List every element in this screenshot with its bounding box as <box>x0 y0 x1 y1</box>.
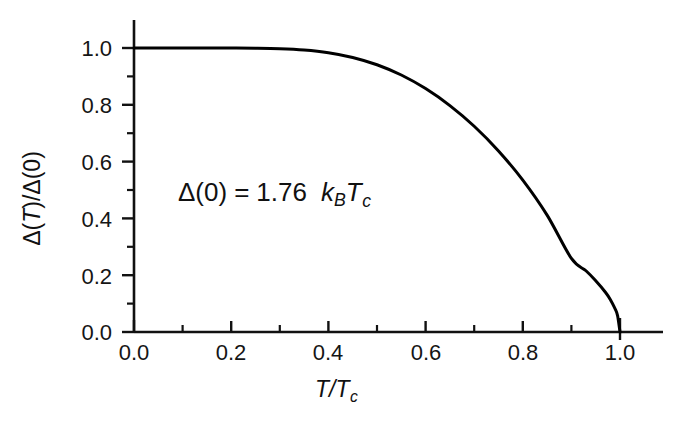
annotation-tc-subscript: c <box>362 191 371 211</box>
x-axis-title-subscript: c <box>350 388 358 405</box>
y-axis-title-delta-open: Δ( <box>19 223 45 246</box>
x-axis-title-numerator: T <box>315 376 329 402</box>
ytick-label-0.4: 0.4 <box>42 207 112 233</box>
ytick-label-0.6: 0.6 <box>42 150 112 176</box>
annotation-value: 1.76 <box>256 177 307 207</box>
xtick-label-0.4: 0.4 <box>293 340 363 366</box>
ytick-label-0.8: 0.8 <box>42 93 112 119</box>
y-axis-title: Δ(T)/Δ(0) <box>19 104 46 294</box>
ytick-label-1.0: 1.0 <box>42 36 112 62</box>
annotation-boltzmann-subscript: B <box>334 190 346 210</box>
x-axis-title: T/Tc <box>315 376 358 406</box>
xtick-label-0.8: 0.8 <box>488 340 558 366</box>
y-axis-title-tail: )/Δ(0) <box>19 151 45 209</box>
figure-container: 1.0 0.8 0.6 0.4 0.2 0.0 0.0 0.2 0.4 0.6 … <box>0 0 699 428</box>
y-axis-title-variable: T <box>19 209 45 223</box>
ytick-label-0.2: 0.2 <box>42 264 112 290</box>
xtick-label-1.0: 1.0 <box>585 340 655 366</box>
xtick-label-0.6: 0.6 <box>391 340 461 366</box>
annotation-boltzmann-symbol: k <box>321 177 334 207</box>
x-axis-title-denominator: T <box>335 376 349 402</box>
annotation-equals: = <box>234 177 249 207</box>
annotation-delta: Δ(0) <box>178 177 227 207</box>
gap-ratio-annotation: Δ(0)=1.76kBTc <box>178 177 371 212</box>
annotation-tc-symbol: T <box>346 177 362 207</box>
xtick-label-0.0: 0.0 <box>99 340 169 366</box>
xtick-label-0.2: 0.2 <box>196 340 266 366</box>
